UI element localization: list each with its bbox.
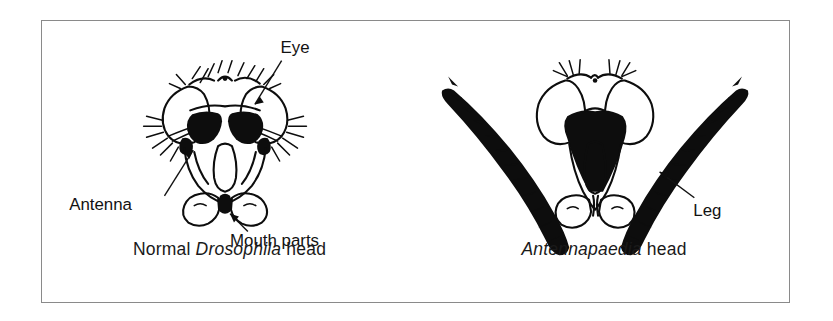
face-bristles-left [144, 116, 179, 161]
caption-normal-species: Drosophila [196, 239, 282, 259]
proboscis [214, 144, 237, 192]
caption-normal-prefix: Normal [133, 239, 196, 259]
leg-right [621, 77, 748, 256]
label-eye: Eye [281, 38, 310, 57]
mouth-parts-palps [183, 193, 267, 226]
caption-normal: Normal Drosophila head [42, 239, 417, 260]
panel-normal-head: Eye Antenna Mouth parts Normal Drosophil… [42, 21, 417, 302]
caption-mutant: Antennapaedia head [417, 239, 791, 260]
figure-root: Eye Antenna Mouth parts Normal Drosophil… [0, 0, 833, 321]
caption-mutant-species: Antennapaedia [521, 239, 641, 259]
figure-frame: Eye Antenna Mouth parts Normal Drosophil… [41, 20, 790, 303]
caption-mutant-suffix: head [642, 239, 687, 259]
antennal-segments [179, 105, 271, 155]
label-antenna: Antenna [69, 195, 132, 214]
head-bristles-top [553, 60, 635, 83]
label-antenna-group: Antenna [69, 150, 193, 214]
antennal-base-dark [564, 108, 626, 191]
mouth-parts-palps [556, 195, 635, 228]
caption-normal-suffix: head [281, 239, 326, 259]
label-leg: Leg [693, 201, 721, 220]
head-bristles-top [169, 61, 280, 89]
face-bristles-right [272, 116, 307, 161]
panel-mutant-head: Leg Antennapaedia head [417, 21, 791, 302]
leg-left [442, 77, 569, 256]
